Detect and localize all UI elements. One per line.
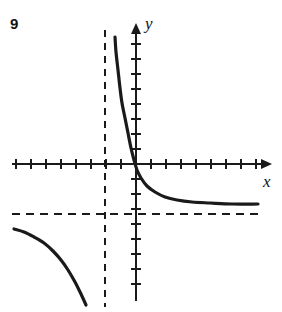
axes-group: [12, 23, 272, 301]
coordinate-plot: [0, 0, 282, 312]
x-axis-arrow-icon: [261, 159, 272, 169]
y-axis-arrow-icon: [131, 23, 141, 34]
curve-branch-lower-left: [14, 229, 86, 305]
figure-container: 9 y x: [0, 0, 282, 312]
